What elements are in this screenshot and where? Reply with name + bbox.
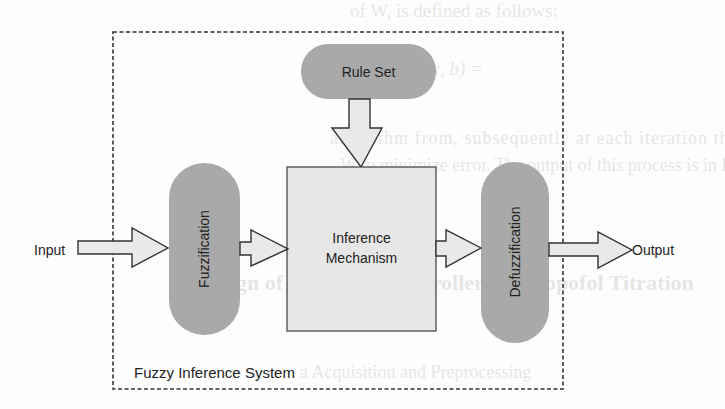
inference-mechanism-node xyxy=(287,167,436,331)
arrow-fuzzification-to-inference xyxy=(240,230,288,266)
arrow-ruleset-to-inference xyxy=(332,99,382,167)
output-label: Output xyxy=(632,242,674,258)
fuzzy-inference-diagram: Rule Set Inference Mechanism Fuzzificati… xyxy=(0,0,725,409)
inference-label-line1: Inference xyxy=(332,230,391,246)
fuzzification-label: Fuzzification xyxy=(196,210,212,288)
system-title: Fuzzy Inference System xyxy=(134,364,295,381)
arrow-inference-to-defuzzification xyxy=(436,230,481,267)
input-label: Input xyxy=(34,242,65,258)
arrow-input-to-fuzzification xyxy=(78,228,168,267)
rule-set-label: Rule Set xyxy=(342,64,396,80)
arrow-defuzzification-to-output xyxy=(549,232,632,268)
defuzzification-label: Defuzzification xyxy=(507,206,523,297)
inference-label-line2: Mechanism xyxy=(326,250,398,266)
